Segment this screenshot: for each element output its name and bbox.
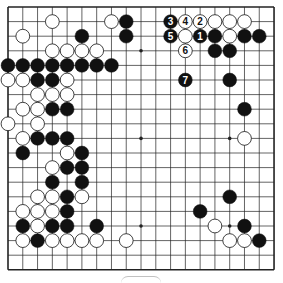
black-stone	[75, 161, 89, 175]
black-stone	[238, 29, 252, 43]
white-stone	[16, 132, 30, 146]
white-stone	[223, 15, 237, 29]
star-point	[139, 224, 143, 228]
white-stone	[1, 117, 15, 131]
white-stone	[223, 29, 237, 43]
white-stone	[60, 146, 74, 160]
black-stone	[45, 175, 59, 189]
white-stone	[31, 117, 45, 131]
move-number: 2	[197, 16, 203, 27]
white-stone	[60, 73, 74, 87]
white-stone	[208, 15, 222, 29]
black-stone	[16, 146, 30, 160]
move-number: 5	[168, 31, 174, 42]
white-stone	[16, 102, 30, 116]
move-number: 4	[183, 16, 189, 27]
black-stone	[60, 102, 74, 116]
black-stone	[193, 205, 207, 219]
move-number: 6	[183, 45, 189, 56]
white-stone	[45, 88, 59, 102]
black-stone	[223, 44, 237, 58]
white-stone	[90, 234, 104, 248]
white-stone	[45, 234, 59, 248]
white-stone	[119, 234, 133, 248]
black-stone	[60, 190, 74, 204]
white-stone	[45, 44, 59, 58]
black-stone	[223, 190, 237, 204]
black-stone	[252, 234, 266, 248]
black-stone	[45, 102, 59, 116]
black-stone	[60, 205, 74, 219]
white-stone	[16, 234, 30, 248]
black-stone	[45, 219, 59, 233]
white-stone	[75, 190, 89, 204]
black-stone	[252, 29, 266, 43]
black-stone	[208, 29, 222, 43]
white-stone	[60, 88, 74, 102]
black-stone	[16, 59, 30, 73]
white-stone	[16, 205, 30, 219]
black-stone	[60, 161, 74, 175]
black-stone	[31, 234, 45, 248]
black-stone	[31, 73, 45, 87]
black-stone	[119, 15, 133, 29]
black-stone	[75, 29, 89, 43]
white-stone	[238, 132, 252, 146]
white-stone	[105, 15, 119, 29]
black-stone	[223, 73, 237, 87]
black-stone	[90, 59, 104, 73]
stones-layer: 1234567	[1, 15, 266, 248]
white-stone	[16, 73, 30, 87]
white-stone	[238, 234, 252, 248]
black-stone: 3	[164, 15, 178, 29]
white-stone	[60, 234, 74, 248]
black-stone	[90, 219, 104, 233]
black-stone: 5	[164, 29, 178, 43]
black-stone	[208, 44, 222, 58]
move-number: 1	[197, 31, 203, 42]
star-point	[139, 49, 143, 53]
black-stone	[45, 132, 59, 146]
white-stone	[31, 102, 45, 116]
star-point	[228, 137, 232, 141]
white-stone: 6	[178, 44, 192, 58]
white-stone	[45, 190, 59, 204]
white-stone	[223, 234, 237, 248]
black-stone	[31, 59, 45, 73]
black-stone	[105, 59, 119, 73]
black-stone: 7	[178, 73, 192, 87]
white-stone	[45, 161, 59, 175]
black-stone	[60, 219, 74, 233]
white-stone	[45, 15, 59, 29]
white-stone	[31, 190, 45, 204]
black-stone	[1, 59, 15, 73]
white-stone	[238, 15, 252, 29]
star-point	[139, 137, 143, 141]
move-number: 3	[168, 16, 174, 27]
black-stone	[75, 146, 89, 160]
black-stone	[238, 219, 252, 233]
white-stone	[90, 44, 104, 58]
star-point	[228, 224, 232, 228]
white-stone	[31, 219, 45, 233]
white-stone	[208, 219, 222, 233]
black-stone	[16, 219, 30, 233]
white-stone	[178, 29, 192, 43]
white-stone	[1, 73, 15, 87]
black-stone	[75, 59, 89, 73]
black-stone	[60, 132, 74, 146]
black-stone	[31, 132, 45, 146]
white-stone: 4	[178, 15, 192, 29]
black-stone	[238, 102, 252, 116]
white-stone	[31, 205, 45, 219]
black-stone	[75, 175, 89, 189]
black-stone	[119, 29, 133, 43]
white-stone	[45, 205, 59, 219]
black-stone: 1	[193, 29, 207, 43]
black-stone	[60, 59, 74, 73]
black-stone	[45, 73, 59, 87]
white-stone	[75, 44, 89, 58]
white-stone	[16, 29, 30, 43]
white-stone: 2	[193, 15, 207, 29]
